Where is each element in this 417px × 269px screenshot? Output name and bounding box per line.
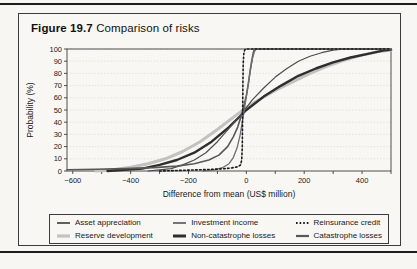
risk-comparison-chart: 0102030405060708090100−600−400−200020040… xyxy=(23,39,398,215)
series-catastrophe-losses xyxy=(67,49,391,170)
legend-item-reinsurance-credit: Reinsurance credit xyxy=(295,217,382,229)
legend-item-investment-income: Investment income xyxy=(172,217,275,229)
y-tick-label: 100 xyxy=(49,45,62,54)
x-tick-label: −200 xyxy=(180,176,197,185)
legend-column-1: Asset appreciationReserve development xyxy=(56,217,153,242)
legend-line-swatch xyxy=(295,219,310,227)
legend-label: Non-catastrophe losses xyxy=(191,231,275,240)
y-tick-label: 20 xyxy=(54,142,62,151)
legend-column-2: Investment incomeNon-catastrophe losses xyxy=(172,217,275,242)
legend-line-swatch xyxy=(56,219,71,227)
y-tick-label: 10 xyxy=(54,154,62,163)
figure-caption: Comparison of risks xyxy=(96,22,200,34)
legend-line-swatch xyxy=(172,219,187,227)
legend-label: Reinsurance credit xyxy=(314,218,381,227)
figure-number: Figure 19.7 xyxy=(31,22,93,34)
y-tick-label: 80 xyxy=(54,69,62,78)
x-tick-label: 400 xyxy=(356,176,369,185)
page: { "figure": { "label": "Figure 19.7", "t… xyxy=(0,0,417,269)
figure-box: Figure 19.7 Comparison of risks 01020304… xyxy=(18,13,401,246)
y-tick-label: 40 xyxy=(54,118,62,127)
legend-item-asset-appreciation: Asset appreciation xyxy=(56,217,153,229)
legend-line-swatch xyxy=(295,232,310,240)
legend-item-catastrophe-losses: Catastrophe losses xyxy=(295,230,382,242)
y-tick-label: 50 xyxy=(54,106,62,115)
figure-title: Figure 19.7 Comparison of risks xyxy=(31,22,200,34)
legend-item-non-catastrophe-losses: Non-catastrophe losses xyxy=(172,230,275,242)
x-tick-label: −600 xyxy=(64,176,81,185)
x-tick-label: 200 xyxy=(298,176,311,185)
y-tick-label: 70 xyxy=(54,81,62,90)
bottom-rule xyxy=(0,251,417,253)
legend-label: Reserve development xyxy=(75,231,153,240)
legend-item-reserve-development: Reserve development xyxy=(56,230,153,242)
chart-legend: Asset appreciationReserve developmentInv… xyxy=(49,214,389,244)
y-tick-label: 30 xyxy=(54,130,62,139)
y-tick-label: 0 xyxy=(58,167,62,176)
legend-label: Asset appreciation xyxy=(75,218,141,227)
series-non-catastrophe-losses xyxy=(108,50,392,171)
y-axis-label: Probability (%) xyxy=(25,82,35,137)
legend-column-3: Reinsurance creditCatastrophe losses xyxy=(295,217,382,242)
y-tick-label: 60 xyxy=(54,93,62,102)
x-axis-label: Difference from mean (US$ million) xyxy=(163,189,296,199)
chart-canvas: 0102030405060708090100−600−400−200020040… xyxy=(23,39,398,211)
legend-label: Catastrophe losses xyxy=(314,231,382,240)
y-tick-label: 90 xyxy=(54,57,62,66)
x-tick-label: 0 xyxy=(244,176,248,185)
legend-line-swatch xyxy=(172,232,187,240)
legend-line-swatch xyxy=(56,232,71,240)
x-tick-label: −400 xyxy=(122,176,139,185)
top-rule xyxy=(0,3,417,5)
legend-label: Investment income xyxy=(191,218,258,227)
